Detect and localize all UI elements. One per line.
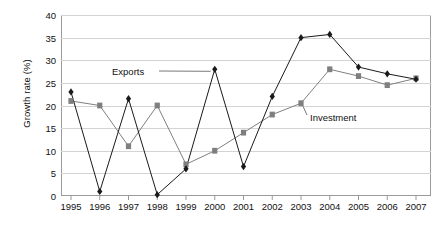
data-point-investment-2004: [327, 66, 332, 72]
data-point-investment-1997: [126, 143, 131, 149]
x-axis-tick-labels: 1995199619971998199920002001200220032004…: [61, 199, 431, 219]
y-axis-tick-40: 40: [22, 10, 56, 21]
data-point-investment-2003: [298, 100, 303, 106]
data-point-exports-1998: [155, 191, 160, 198]
data-point-exports-1997: [126, 95, 131, 102]
y-axis-tick-20: 20: [22, 100, 56, 111]
data-point-investment-1995: [68, 98, 73, 104]
annotation-exports: Exports: [112, 66, 144, 77]
y-axis-tick-30: 30: [22, 55, 56, 66]
data-point-exports-1996: [97, 188, 102, 195]
y-axis-tick-5: 5: [22, 168, 56, 179]
y-axis-tick-25: 25: [22, 77, 56, 88]
chart-svg: [61, 15, 431, 196]
data-point-exports-2002: [270, 93, 275, 100]
x-axis-tick-2007: 2007: [396, 201, 436, 212]
y-axis-tick-15: 15: [22, 123, 56, 134]
chart-container: Growth rate (%) 0510152025303540 1995199…: [0, 0, 448, 231]
y-axis-tick-0: 0: [22, 191, 56, 202]
data-point-investment-2002: [270, 112, 275, 118]
data-point-exports-1995: [68, 88, 73, 95]
y-axis-tick-35: 35: [22, 32, 56, 43]
leader-line-investment: [303, 106, 307, 115]
data-point-investment-2001: [241, 130, 246, 136]
series-line-exports: [71, 34, 416, 194]
data-point-investment-2000: [212, 148, 217, 154]
data-point-exports-2001: [241, 163, 246, 170]
y-axis-tick-labels: 0510152025303540: [22, 0, 58, 231]
data-point-investment-2006: [385, 82, 390, 88]
data-point-investment-1998: [155, 103, 160, 109]
data-point-investment-2005: [356, 73, 361, 79]
annotation-investment: Investment: [310, 112, 356, 123]
data-point-exports-2003: [298, 34, 303, 41]
data-point-exports-2006: [385, 70, 390, 77]
data-point-investment-1996: [97, 103, 102, 109]
data-point-exports-2000: [212, 66, 217, 73]
y-axis-tick-10: 10: [22, 145, 56, 156]
